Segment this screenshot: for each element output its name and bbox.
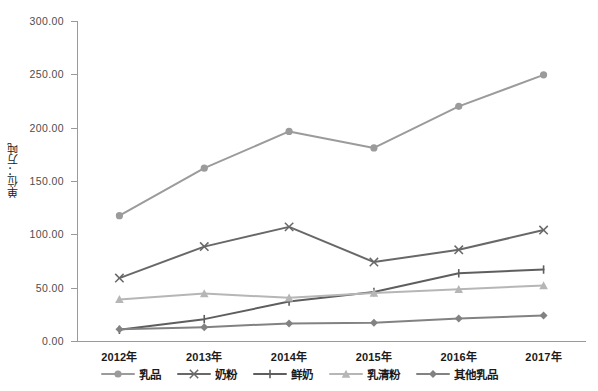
y-tick-label: 300.00 xyxy=(4,15,64,27)
data-point-triangle xyxy=(539,281,548,289)
legend-label: 奶粉 xyxy=(215,366,237,382)
y-tick-mark xyxy=(71,21,77,22)
data-point-x xyxy=(285,223,293,231)
y-tick-label: 0.00 xyxy=(4,335,64,347)
data-point-circle xyxy=(540,71,547,78)
data-point-triangle xyxy=(200,289,209,297)
legend-marker-dash-icon xyxy=(253,368,287,380)
x-axis-line xyxy=(77,341,586,342)
y-tick-label: 50.00 xyxy=(4,282,64,294)
chart-legend: 乳品奶粉鲜奶乳清粉其他乳品 xyxy=(0,364,598,384)
legend-item-3[interactable]: 乳清粉 xyxy=(329,366,400,382)
data-point-triangle xyxy=(115,295,124,303)
legend-item-0[interactable]: 乳品 xyxy=(101,366,161,382)
legend-marker-circle-icon xyxy=(101,368,135,380)
data-point-circle xyxy=(201,165,208,172)
legend-item-4[interactable]: 其他乳品 xyxy=(416,366,498,382)
x-tick-label: 2013年 xyxy=(159,348,249,364)
data-point-circle xyxy=(455,103,462,110)
data-point-diamond xyxy=(200,323,208,331)
chart-container: 单位：万吨 0.0050.00100.00150.00200.00250.003… xyxy=(0,0,598,391)
y-tick-label: 100.00 xyxy=(4,228,64,240)
series-0 xyxy=(116,71,547,219)
legend-item-1[interactable]: 奶粉 xyxy=(177,366,237,382)
data-point-x xyxy=(200,242,208,250)
data-point-diamond xyxy=(540,311,548,319)
data-point-circle xyxy=(285,128,292,135)
y-tick-mark xyxy=(71,128,77,129)
data-point-diamond xyxy=(429,370,437,378)
data-point-triangle xyxy=(285,294,294,302)
data-point-diamond xyxy=(285,319,293,327)
data-point-circle xyxy=(114,370,121,377)
legend-marker-diamond-icon xyxy=(416,368,450,380)
y-axis-line xyxy=(77,21,78,342)
data-point-x xyxy=(115,274,123,282)
y-tick-label: 200.00 xyxy=(4,122,64,134)
data-point-diamond xyxy=(115,325,123,333)
series-line xyxy=(119,227,543,278)
series-3 xyxy=(115,281,548,303)
data-point-x xyxy=(455,246,463,254)
x-tick-label: 2016年 xyxy=(414,348,504,364)
data-point-x xyxy=(370,258,378,266)
data-point-diamond xyxy=(370,319,378,327)
legend-marker-triangle-icon xyxy=(329,368,363,380)
data-point-diamond xyxy=(455,315,463,323)
data-point-circle xyxy=(116,212,123,219)
chart-plot-area xyxy=(0,0,598,391)
series-2 xyxy=(119,265,543,334)
x-tick-label: 2017年 xyxy=(499,348,589,364)
series-4 xyxy=(115,311,547,333)
legend-marker-x-icon xyxy=(177,368,211,380)
y-tick-mark xyxy=(71,288,77,289)
x-tick-label: 2015年 xyxy=(329,348,419,364)
data-point-circle xyxy=(370,144,377,151)
y-tick-mark xyxy=(71,181,77,182)
legend-label: 乳清粉 xyxy=(367,366,400,382)
series-line xyxy=(119,270,543,330)
series-line xyxy=(119,286,543,300)
y-tick-label: 250.00 xyxy=(4,68,64,80)
legend-label: 鲜奶 xyxy=(291,366,313,382)
series-line xyxy=(119,315,543,329)
data-point-triangle xyxy=(454,285,463,293)
data-point-triangle xyxy=(370,289,379,297)
legend-label: 乳品 xyxy=(139,366,161,382)
y-tick-mark xyxy=(71,341,77,342)
series-line xyxy=(119,75,543,216)
y-tick-mark xyxy=(71,74,77,75)
legend-item-2[interactable]: 鲜奶 xyxy=(253,366,313,382)
y-tick-mark xyxy=(71,234,77,235)
data-point-x xyxy=(539,226,547,234)
legend-label: 其他乳品 xyxy=(454,366,498,382)
y-tick-label: 150.00 xyxy=(4,175,64,187)
series-1 xyxy=(115,223,548,283)
x-tick-label: 2014年 xyxy=(244,348,334,364)
x-tick-label: 2012年 xyxy=(74,348,164,364)
